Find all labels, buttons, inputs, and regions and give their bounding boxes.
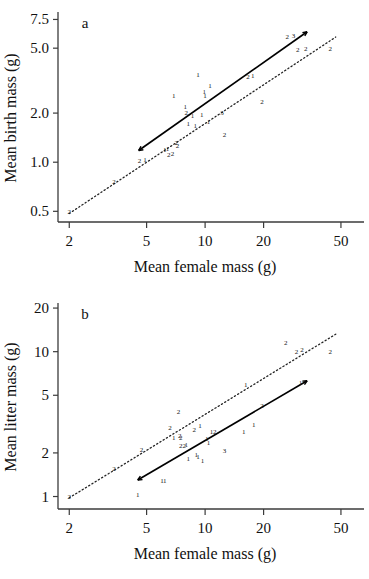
data-point-label: 2 <box>171 150 175 158</box>
data-point-label: 1 <box>198 422 202 430</box>
panel-b: 125102025102050Mean female mass (g)Mean … <box>0 285 369 579</box>
x-tick-label: 50 <box>333 520 348 536</box>
data-point-label: 2 <box>112 465 116 473</box>
data-point-label: 2 <box>68 208 72 216</box>
data-point-label: 1 <box>203 92 207 100</box>
data-point-label: 1 <box>196 453 200 461</box>
data-point-label: 2 <box>328 348 332 356</box>
x-tick-label: 2 <box>66 520 74 536</box>
y-tick-label: 5 <box>42 387 50 403</box>
data-point-label: 1 <box>201 457 205 465</box>
data-point-label: 2 <box>223 131 227 139</box>
data-point-label: 2 <box>68 493 72 501</box>
x-axis-title: Mean female mass (g) <box>134 545 277 563</box>
x-tick-label: 2 <box>66 233 74 249</box>
data-point-label: 1 <box>143 156 147 164</box>
data-point-label: 1 <box>208 82 212 90</box>
data-point-label: 2 <box>260 98 264 106</box>
y-tick-label: 5.0 <box>30 40 49 56</box>
y-axis-title: Mean birth mass (g) <box>2 53 20 182</box>
data-point-label: 1 <box>172 92 176 100</box>
x-tick-label: 50 <box>333 233 348 249</box>
y-tick-label: 1 <box>42 489 50 505</box>
fitted-regression-line <box>138 381 307 480</box>
data-point-label: 2 <box>168 424 172 432</box>
y-tick-label: 2.0 <box>30 105 49 121</box>
data-point-label: 2 <box>213 428 217 436</box>
data-point-label: 1 <box>136 491 140 499</box>
data-point-label: 2 <box>295 348 299 356</box>
y-tick-label: 10 <box>34 344 49 360</box>
data-point-label: 2 <box>246 73 250 81</box>
data-point-label: 3 <box>220 109 224 117</box>
data-point-label: 1 <box>194 122 198 130</box>
data-point-label: 1 <box>244 381 248 389</box>
data-point-label: 2 <box>112 178 116 186</box>
data-point-label: 1 <box>187 120 191 128</box>
y-tick-label: 2 <box>42 445 50 461</box>
figure-root: 0.51.02.05.07.525102050Mean female mass … <box>0 0 369 579</box>
data-point-label: 2 <box>138 157 142 165</box>
data-point-label: 2 <box>260 402 264 410</box>
data-point-label: 1 <box>200 111 204 119</box>
data-point-label: 2 <box>296 46 300 54</box>
x-tick-label: 20 <box>256 233 271 249</box>
reference-isometry-line <box>69 334 335 498</box>
data-point-label: 1 <box>172 434 176 442</box>
data-point-label: 1 <box>191 112 195 120</box>
scatter-plot-a: 0.51.02.05.07.525102050Mean female mass … <box>0 0 369 290</box>
x-tick-label: 5 <box>143 520 151 536</box>
data-point-label: 2 <box>140 446 144 454</box>
data-point-label: 2 <box>284 339 288 347</box>
data-point-label: 2 <box>176 142 180 150</box>
y-axis-title: Mean litter mass (g) <box>2 342 20 471</box>
y-tick-label: 0.5 <box>30 203 49 219</box>
x-axis-title: Mean female mass (g) <box>134 258 277 276</box>
x-tick-label: 20 <box>256 520 271 536</box>
data-point-label: 2 <box>304 45 308 53</box>
y-tick-label: 7.5 <box>30 11 49 27</box>
data-point-label: 1 <box>163 477 167 485</box>
data-point-label: 1 <box>207 439 211 447</box>
data-point-label: 3 <box>292 32 296 40</box>
x-tick-label: 10 <box>198 520 213 536</box>
data-point-label: 2 <box>193 426 197 434</box>
y-tick-label: 20 <box>34 300 49 316</box>
data-point-label: 1 <box>196 71 200 79</box>
panel-a: 0.51.02.05.07.525102050Mean female mass … <box>0 0 369 290</box>
data-point-label: 2 <box>300 346 304 354</box>
data-point-label: 1 <box>252 421 256 429</box>
y-tick-label: 1.0 <box>30 154 49 170</box>
panel-letter: a <box>82 15 89 31</box>
panel-letter: b <box>81 306 89 322</box>
data-point-label: 2 <box>185 109 189 117</box>
data-point-label: 1 <box>185 441 189 449</box>
scatter-plot-b: 125102025102050Mean female mass (g)Mean … <box>0 285 369 579</box>
x-tick-label: 10 <box>198 233 213 249</box>
data-point-label: 1 <box>299 379 303 387</box>
data-point-label: 2 <box>286 33 290 41</box>
data-point-label: 2 <box>328 45 332 53</box>
data-point-label: 1 <box>187 455 191 463</box>
data-point-label: 3 <box>223 447 227 455</box>
data-point-label: 2 <box>177 408 181 416</box>
reference-isometry-line <box>69 37 335 213</box>
x-tick-label: 5 <box>143 233 151 249</box>
data-point-label: 1 <box>251 72 255 80</box>
data-point-label: 1 <box>207 118 211 126</box>
data-point-label: 1 <box>242 428 246 436</box>
